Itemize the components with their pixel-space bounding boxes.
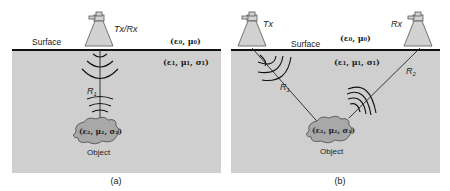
ground-region <box>12 50 221 173</box>
antenna-label: Tx/Rx <box>114 24 138 34</box>
air-params: (ε₀, μ₀) <box>170 36 201 46</box>
gpr-diagram: Tx/Rx Surface (ε₀, μ₀) (ε₁, μ₁, σ₁) R1 (… <box>0 0 450 191</box>
object-label: Object <box>87 148 111 157</box>
caption-a: (a) <box>111 176 122 186</box>
antenna-rx-icon <box>404 12 432 46</box>
antenna-tx-icon <box>238 12 266 46</box>
air-params: (ε₀, μ₀) <box>340 33 371 43</box>
tx-label: Tx <box>263 19 273 29</box>
panel-b: Tx Rx Surface (ε₀, μ₀) (ε₁, μ₁, σ₁) R1 <box>231 12 440 186</box>
ground-params: (ε₁, μ₁, σ₁) <box>163 57 209 67</box>
object-params: (ε₂, μ₂, σ₂) <box>312 126 355 135</box>
object-label: Object <box>320 147 344 156</box>
caption-b: (b) <box>335 176 346 186</box>
rx-label: Rx <box>391 19 402 29</box>
surface-label: Surface <box>291 39 321 49</box>
surface-label: Surface <box>32 37 62 47</box>
panel-a: Tx/Rx Surface (ε₀, μ₀) (ε₁, μ₁, σ₁) R1 (… <box>12 12 221 186</box>
antenna-tx-rx-icon <box>85 12 113 46</box>
object-params: (ε₂, μ₂, σ₂) <box>79 127 122 136</box>
ground-params: (ε₁, μ₁, σ₁) <box>334 57 380 67</box>
